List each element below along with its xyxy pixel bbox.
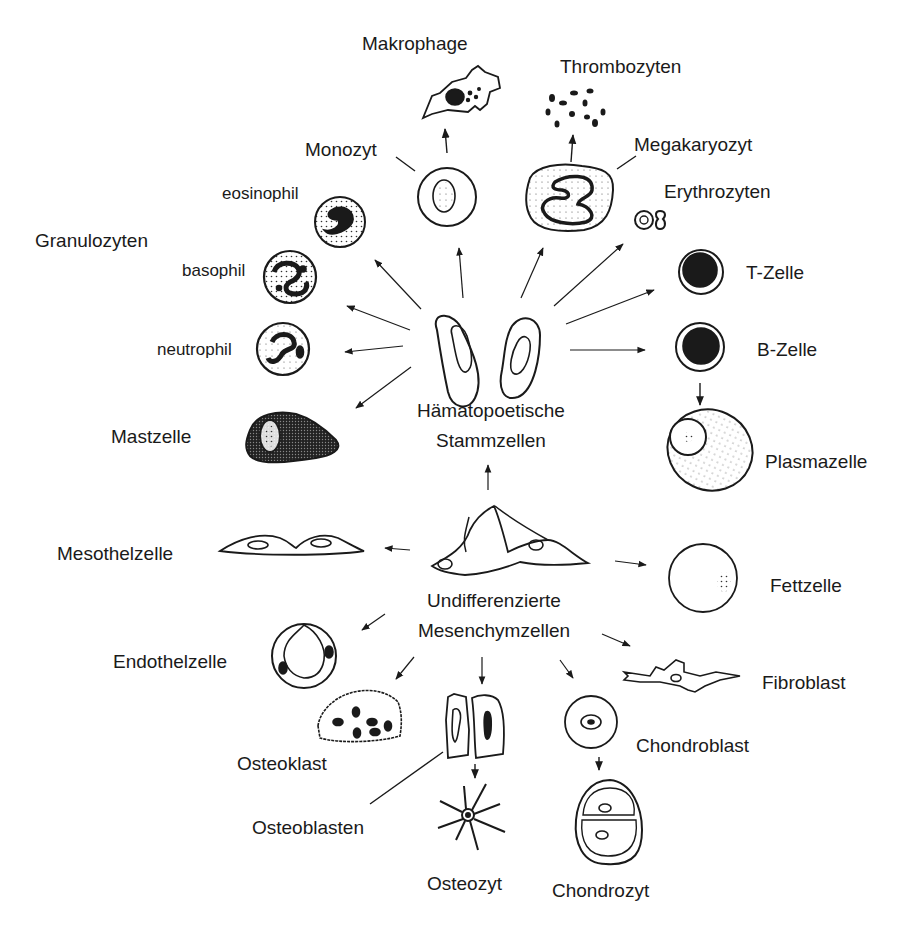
osteozyt-icon — [438, 784, 505, 850]
endothelzelle-icon — [272, 624, 336, 688]
label-neutrophil: neutrophil — [157, 339, 232, 361]
label-hematopoietic-stem-cells: Hämatopoetische Stammzellen — [400, 400, 582, 452]
mesenchymal-stem-cells-icon — [432, 506, 588, 575]
label-fettzelle: Fettzelle — [770, 575, 842, 597]
mastzelle-icon — [246, 413, 338, 463]
eosinophil-icon — [315, 197, 365, 247]
basophil-icon — [264, 251, 316, 303]
megakaryozyt-leader-line — [617, 156, 636, 169]
label-makrophage: Makrophage — [362, 33, 468, 55]
label-osteozyt: Osteozyt — [427, 873, 502, 895]
neutrophil-icon — [257, 323, 309, 375]
label-b-zelle: B-Zelle — [757, 339, 817, 361]
b-zelle-icon — [676, 323, 724, 371]
chondroblast-icon — [565, 696, 617, 748]
chondrozyt-icon — [576, 780, 642, 864]
hematopoietic-line1: Hämatopoetische — [400, 400, 582, 422]
monozyt-icon — [418, 168, 476, 226]
thrombozyten-icon — [546, 89, 606, 128]
monozyt-leader-line — [396, 157, 415, 171]
mesenchymal-line1: Undifferenzierte — [400, 590, 588, 612]
label-chondroblast: Chondroblast — [636, 735, 749, 757]
label-eosinophil: eosinophil — [222, 183, 299, 205]
megakaryozyt-icon — [526, 165, 613, 232]
label-thrombozyten: Thrombozyten — [560, 56, 681, 78]
label-osteoblasten: Osteoblasten — [252, 817, 364, 839]
label-mastzelle: Mastzelle — [111, 426, 191, 448]
makrophage-icon — [423, 66, 500, 118]
hematopoietic-line2: Stammzellen — [400, 430, 582, 452]
label-basophil: basophil — [182, 260, 245, 282]
label-mesothelzelle: Mesothelzelle — [57, 543, 173, 565]
label-endothelzelle: Endothelzelle — [113, 651, 227, 673]
mesothelzelle-icon — [220, 536, 364, 555]
label-monozyt: Monozyt — [305, 139, 377, 161]
label-granulozyten: Granulozyten — [35, 230, 148, 252]
hematopoietic-stem-cells-icon — [436, 316, 540, 407]
osteoklast-icon — [318, 690, 401, 741]
hematopoietic-arrows — [345, 244, 654, 490]
label-plasmazelle: Plasmazelle — [765, 451, 867, 473]
label-chondrozyt: Chondrozyt — [552, 880, 649, 902]
erythrozyten-icon — [635, 211, 665, 229]
mesenchymal-line2: Mesenchymzellen — [400, 620, 588, 642]
osteoblasten-leader-line — [370, 752, 443, 804]
plasmazelle-icon — [654, 396, 766, 505]
osteoblasten-icon — [446, 694, 504, 758]
fibroblast-icon — [624, 660, 740, 692]
fettzelle-icon — [669, 544, 737, 612]
label-megakaryozyt: Megakaryozyt — [634, 134, 752, 156]
label-erythrozyten: Erythrozyten — [664, 181, 771, 203]
label-osteoklast: Osteoklast — [237, 753, 327, 775]
cell-differentiation-diagram: Makrophage Thrombozyten Monozyt Megakary… — [0, 0, 922, 938]
label-fibroblast: Fibroblast — [762, 672, 845, 694]
t-zelle-icon — [679, 250, 723, 294]
label-mesenchymal-stem-cells: Undifferenzierte Mesenchymzellen — [400, 590, 588, 642]
label-t-zelle: T-Zelle — [746, 262, 804, 284]
